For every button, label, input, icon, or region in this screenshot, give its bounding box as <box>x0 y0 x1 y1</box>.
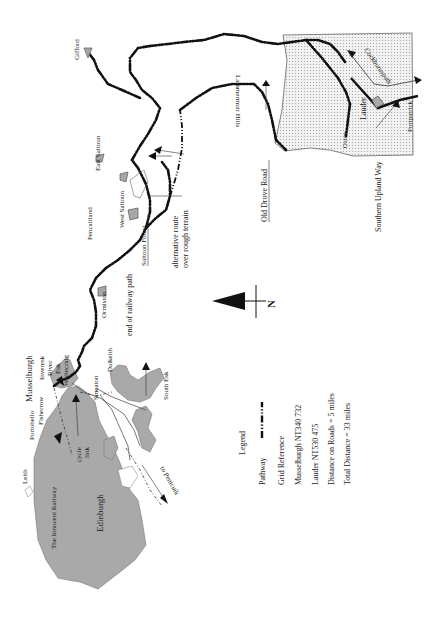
route-map: N Leith Portobello Fisherrow Musselburgh… <box>0 0 440 622</box>
pathway-route-drove <box>180 84 286 150</box>
bonnyrigg-area <box>132 406 156 452</box>
portpatrick-arrow-icon <box>414 76 422 84</box>
legend-grid-lauder: Lauder NT530 475 <box>311 424 320 485</box>
legend-pathway-label: Pathway <box>258 457 267 485</box>
pencaitland-marker <box>128 208 138 220</box>
label-portpatrick: Portpatrick <box>406 100 414 132</box>
label-saltoun-forest: Saltoun Forest <box>140 225 148 266</box>
label-whitecraig: Whitecraig <box>62 354 70 386</box>
label-edinburgh: Edinburgh <box>95 494 105 532</box>
label-west-saltoun: West Saltoun <box>118 191 126 228</box>
label-fisherrow: Fisherrow <box>37 396 45 425</box>
label-inveresk: Inveresk <box>38 355 46 380</box>
alt-route-pointer <box>158 150 184 154</box>
label-cycle: cycle <box>75 447 83 462</box>
label-gifford: Gifford <box>73 39 81 60</box>
label-river: River <box>46 360 54 376</box>
legend: Legend Pathway Grid Reference Musselburg… <box>238 393 352 485</box>
label-alternative-route: alternative route <box>171 215 180 268</box>
label-southern-upland-way: Southern Upland Way <box>374 161 383 232</box>
label-to-penicuik: to Penicuik <box>158 465 181 497</box>
south-esk-arrowhead-icon <box>142 362 150 370</box>
label-lauder: Lauder <box>359 97 368 120</box>
label-link: link <box>83 447 91 458</box>
label-lammermuir-hills: Lammermuir Hills <box>234 75 242 128</box>
label-smeaton: Smeaton <box>92 375 100 400</box>
pathway-route-north <box>130 46 160 160</box>
north-label: N <box>265 300 277 308</box>
pathway-alternative-route <box>166 110 182 210</box>
label-leith: Leith <box>21 469 29 484</box>
label-esk: Esk <box>54 363 62 374</box>
label-musselburgh: Musselburgh <box>24 355 34 402</box>
saltoun-forest-arrowhead-icon <box>148 152 156 160</box>
pathway-route-main <box>54 160 150 386</box>
label-old-drove-road: Old Drove Road <box>260 169 269 222</box>
label-end-of-railway-path: end of railway path <box>125 274 134 336</box>
north-arrow: N <box>212 285 277 318</box>
west-saltoun-marker <box>120 172 128 182</box>
label-innocent-railway: The Innocent Railway <box>50 486 58 549</box>
penicuik-arrowhead-icon <box>160 494 168 504</box>
label-dalkeith: Dalkeith <box>106 347 114 372</box>
label-south-esk: South Esk <box>162 371 170 400</box>
label-pencaitland: Pencaitland <box>86 207 94 240</box>
dalkeith-area <box>110 365 164 402</box>
label-rough-terrain: over rough terrain <box>181 210 190 268</box>
legend-grid-musselburgh: Musselburgh NT340 732 <box>294 405 303 485</box>
legend-grid-reference-title: Grid Reference <box>277 435 286 485</box>
edinburgh-coast-notch <box>25 486 33 497</box>
legend-distance-roads: Distance on Roads = 5 miles <box>327 393 336 485</box>
label-east-saltoun: East Saltoun <box>94 135 102 171</box>
label-ormiston: Ormiston <box>100 291 108 318</box>
legend-title: Legend <box>238 431 247 455</box>
old-drove-road-arrowhead-icon <box>262 80 270 86</box>
label-portobello: Portobello <box>28 410 36 440</box>
legend-total-distance: Total Distance = 33 miles <box>343 403 352 485</box>
label-oxton: Oxton <box>341 131 348 148</box>
north-arrow-icon <box>212 292 245 310</box>
